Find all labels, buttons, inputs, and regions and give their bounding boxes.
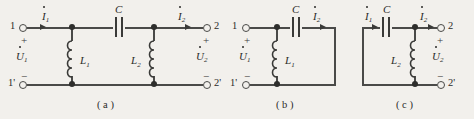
panel-caption-a: ( a ) <box>97 100 114 111</box>
current-label-i2: I2 <box>420 10 427 22</box>
panel-caption-b: ( b ) <box>276 100 294 111</box>
current-arrow-i2 <box>428 24 434 30</box>
inductor-l2 <box>147 40 161 82</box>
inductor-label-l1: L1 <box>285 55 295 69</box>
inductor-label-l2: L2 <box>131 55 141 69</box>
terminal-label-2-prime: 2' <box>448 78 455 89</box>
polarity-plus-left: + <box>21 35 27 46</box>
inductor-l1 <box>65 40 79 82</box>
terminal-node-1-prime[interactable] <box>19 81 27 89</box>
terminal-node-2-prime[interactable] <box>203 81 211 89</box>
capacitor-c <box>113 17 125 37</box>
panel-c: 2 2' C L2 <box>348 0 474 119</box>
wire-capacitor-to-node2 <box>125 27 153 29</box>
terminal-node-2-prime[interactable] <box>437 81 445 89</box>
wire-bottom <box>362 84 437 86</box>
terminal-label-1-prime: 1' <box>230 78 237 89</box>
terminal-label-1: 1 <box>232 21 237 32</box>
inductor-label-l2: L2 <box>391 55 401 69</box>
wire-bottom <box>27 84 203 86</box>
capacitor-plate-right <box>121 17 123 37</box>
capacitor-c <box>290 17 302 37</box>
polarity-plus-left: + <box>244 35 250 46</box>
wire-capacitor-to-node <box>392 27 414 29</box>
wire-capacitor-to-right <box>302 27 336 29</box>
terminal-node-2[interactable] <box>437 24 445 32</box>
capacitor-c <box>380 17 392 37</box>
capacitor-label-c: C <box>292 4 299 15</box>
polarity-minus-left: − <box>244 71 250 82</box>
polarity-minus-right: − <box>437 71 443 82</box>
junction-dot-top <box>274 24 280 30</box>
panel-a: 1 1' 2 2' C <box>0 0 228 119</box>
terminal-label-2-prime: 2' <box>214 78 221 89</box>
capacitor-label-c: C <box>383 4 390 15</box>
current-arrow-i1 <box>40 24 46 30</box>
capacitor-plate-right <box>298 17 300 37</box>
current-label-i2: I2 <box>313 10 320 22</box>
capacitor-label-c: C <box>115 4 122 15</box>
current-label-i1: I1 <box>365 10 372 22</box>
current-arrow-i2 <box>185 24 191 30</box>
capacitor-plate-left <box>115 17 117 37</box>
wire-top-left <box>27 27 71 29</box>
polarity-plus-right: + <box>203 35 209 46</box>
current-arrow-i2 <box>320 24 326 30</box>
inductor-l1 <box>270 40 284 82</box>
terminal-node-2[interactable] <box>203 24 211 32</box>
voltage-label-u2: U2 <box>432 50 443 62</box>
terminal-node-1-prime[interactable] <box>242 81 250 89</box>
capacitor-plate-left <box>382 17 384 37</box>
junction-dot-top-left <box>69 24 75 30</box>
panel-caption-c: ( c ) <box>396 100 413 111</box>
wire-short-circuit-left <box>362 27 364 86</box>
wire-top-right <box>153 27 203 29</box>
current-label-i2: I2 <box>178 10 185 22</box>
junction-dot-top-right <box>151 24 157 30</box>
terminal-node-1[interactable] <box>242 24 250 32</box>
voltage-label-u1: U1 <box>16 50 27 62</box>
wire-top-left <box>250 27 276 29</box>
capacitor-plate-right <box>388 17 390 37</box>
wire-top-to-capacitor <box>71 27 113 29</box>
capacitor-plate-left <box>292 17 294 37</box>
inductor-label-l1: L1 <box>80 55 90 69</box>
panel-b: 1 1' C L1 <box>228 0 348 119</box>
inductor-l2 <box>408 40 422 82</box>
wire-bottom <box>250 84 336 86</box>
polarity-plus-right: + <box>437 35 443 46</box>
terminal-label-2: 2 <box>214 21 219 32</box>
terminal-label-1-prime: 1' <box>8 78 15 89</box>
polarity-minus-left: − <box>21 71 27 82</box>
voltage-label-u1: U1 <box>239 50 250 62</box>
wire-short-circuit-right <box>334 27 336 86</box>
terminal-label-1: 1 <box>10 21 15 32</box>
junction-dot-top <box>412 24 418 30</box>
figure-container: 1 1' 2 2' C <box>0 0 474 119</box>
terminal-node-1[interactable] <box>19 24 27 32</box>
current-label-i1: I1 <box>42 10 49 22</box>
current-arrow-i1 <box>372 24 378 30</box>
terminal-label-2: 2 <box>448 21 453 32</box>
voltage-label-u2: U2 <box>196 50 207 62</box>
polarity-minus-right: − <box>203 71 209 82</box>
